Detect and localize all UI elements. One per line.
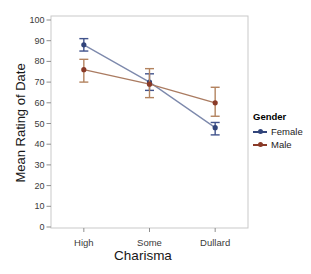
male-series-marker-icon: [253, 140, 267, 149]
legend-item-female: Female: [253, 125, 303, 138]
x-tick-label: Dullard: [200, 237, 230, 248]
y-tick-label: 60: [34, 98, 44, 108]
legend-item-label: Male: [271, 139, 292, 150]
y-tick-label: 20: [34, 181, 44, 191]
y-tick-label: 70: [34, 77, 44, 87]
data-point-marker: [147, 82, 152, 87]
female-series-marker-icon: [253, 127, 267, 136]
y-tick-label: 80: [34, 56, 44, 66]
legend: Gender Female Male: [253, 111, 303, 151]
data-point-marker: [213, 125, 218, 130]
legend-item-label: Female: [271, 126, 303, 137]
legend-item-male: Male: [253, 138, 303, 151]
x-tick-label: Some: [137, 237, 162, 248]
data-point-marker: [213, 100, 218, 105]
y-tick-label: 100: [29, 15, 44, 25]
y-tick-label: 30: [34, 160, 44, 170]
y-tick-label: 50: [34, 119, 44, 129]
y-tick-label: 90: [34, 36, 44, 46]
data-point-marker: [81, 42, 86, 47]
y-tick-label: 40: [34, 139, 44, 149]
y-tick-label: 0: [39, 222, 44, 232]
data-point-marker: [81, 67, 86, 72]
chart: 0102030405060708090100HighSomeDullard Me…: [0, 0, 311, 274]
legend-title: Gender: [253, 111, 303, 122]
x-tick-label: High: [74, 237, 94, 248]
y-axis-title: Mean Rating of Date: [13, 63, 28, 182]
x-axis-title: Charisma: [114, 248, 172, 263]
y-tick-label: 10: [34, 201, 44, 211]
